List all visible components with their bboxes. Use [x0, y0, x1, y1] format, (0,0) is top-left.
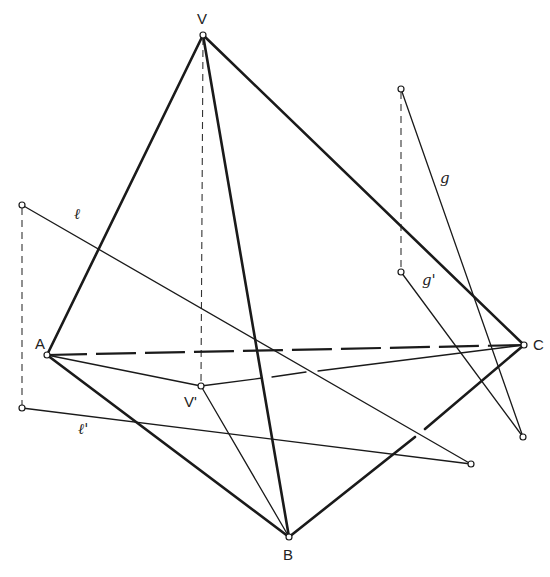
line-a-vprime [47, 355, 201, 386]
point-g-prime-start [398, 269, 404, 275]
point-g-start [398, 86, 404, 92]
label-g: g [440, 169, 450, 187]
edge-vb [203, 35, 289, 537]
point-l-start [19, 202, 25, 208]
label-v-prime: V' [184, 393, 197, 410]
line-vprime-c-seg2 [272, 372, 306, 377]
line-g-prime [401, 272, 523, 437]
line-vprime-c-seg1 [201, 378, 262, 386]
point-l-prime-start [19, 405, 25, 411]
edge-bc-seg1 [289, 437, 415, 537]
label-l-prime: ℓ' [78, 420, 88, 438]
line-g [401, 89, 523, 437]
edge-vc [203, 35, 524, 345]
edge-ab [47, 355, 289, 537]
label-a: A [35, 335, 45, 352]
label-v: V [197, 10, 207, 27]
point-b [286, 534, 292, 540]
point-a [44, 352, 50, 358]
label-c: C [533, 336, 544, 353]
point-c [521, 342, 527, 348]
edge-va [47, 35, 203, 355]
projection-line-v [201, 38, 203, 383]
point-v [200, 32, 206, 38]
label-l: ℓ [74, 205, 80, 223]
label-g-prime: g' [422, 271, 436, 289]
point-g-end [520, 434, 526, 440]
point-v-prime [198, 383, 204, 389]
edge-bc-seg2 [425, 345, 524, 429]
point-l-end [468, 461, 474, 467]
line-l [22, 205, 471, 464]
label-b: B [283, 546, 293, 563]
line-l-prime [22, 408, 471, 464]
pyramid-diagram: V A B C V' ℓ ℓ' g g' [0, 0, 550, 577]
